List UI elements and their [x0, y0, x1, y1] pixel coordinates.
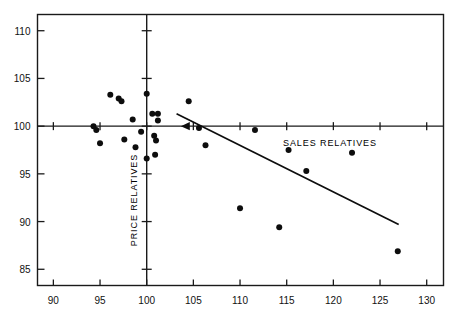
data-point: [152, 152, 158, 158]
x-tick-label-130: 130: [418, 295, 435, 306]
x-tick-label-95: 95: [94, 295, 106, 306]
data-point: [395, 248, 401, 254]
x-tick-label-90: 90: [48, 295, 60, 306]
y-axis-label: PRICE RELATIVES: [129, 154, 139, 246]
y-tick-label-105: 105: [14, 73, 31, 84]
data-point: [186, 98, 192, 104]
data-point: [237, 205, 243, 211]
data-point: [107, 92, 113, 98]
data-point: [97, 140, 103, 146]
y-tick-label-100: 100: [14, 121, 31, 132]
x-tick-label-110: 110: [232, 295, 248, 306]
y-tick-label-95: 95: [19, 169, 31, 180]
data-point: [144, 91, 150, 97]
y-tick-label-110: 110: [15, 26, 31, 37]
x-axis-label: SALES RELATIVES: [283, 138, 377, 148]
x-tick-label-105: 105: [185, 295, 202, 306]
data-point: [276, 224, 282, 230]
x-tick-label-115: 115: [279, 295, 295, 306]
plot-background: [0, 0, 458, 313]
x-tick-label-120: 120: [325, 295, 342, 306]
data-point: [130, 116, 136, 122]
data-point: [349, 150, 355, 156]
data-point: [93, 127, 99, 133]
data-point: [303, 168, 309, 174]
x-tick-label-125: 125: [372, 295, 389, 306]
data-point: [133, 144, 139, 150]
scatter-plot-figure: 9095100105110115120125130859095100105110…: [0, 0, 458, 313]
data-point: [155, 117, 161, 123]
y-tick-label-90: 90: [19, 217, 31, 228]
data-point: [121, 137, 127, 143]
data-point: [144, 156, 150, 162]
data-point: [149, 111, 155, 117]
data-point: [155, 111, 161, 117]
data-point: [138, 129, 144, 135]
data-point: [252, 127, 258, 133]
data-point: [203, 142, 209, 148]
data-point: [153, 137, 159, 143]
x-tick-label-100: 100: [138, 295, 155, 306]
y-tick-label-85: 85: [19, 264, 31, 275]
data-point: [119, 98, 125, 104]
